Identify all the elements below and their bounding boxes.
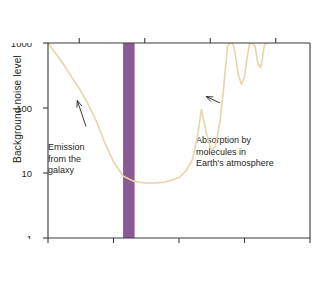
- plot-canvas: [0, 0, 328, 282]
- radio-window-band: [123, 43, 135, 238]
- bottom-clip-mask: [0, 239, 328, 282]
- chart-figure: Wavelength (cm) Frequency (GHz) Backgrou…: [0, 0, 328, 282]
- top-clip-mask: [0, 0, 328, 43]
- arrow-absorption: [206, 97, 220, 103]
- arrow-emission: [77, 101, 86, 127]
